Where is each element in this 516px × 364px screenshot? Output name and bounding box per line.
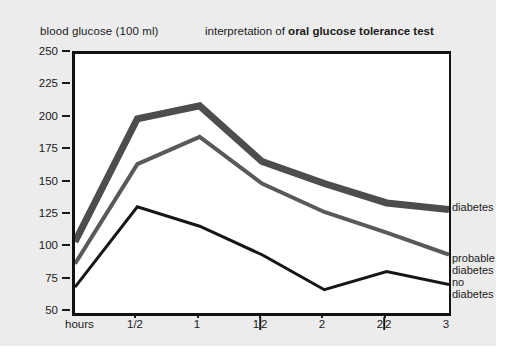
chart-title-emphasis: oral glucose tolerance test — [288, 25, 434, 37]
x-axis-title: hours — [65, 318, 94, 330]
y-tick-mark — [62, 147, 70, 149]
chart-lines — [75, 54, 449, 313]
y-tick-mark — [62, 244, 70, 246]
y-tick-label: 200 — [24, 110, 58, 122]
y-tick-label: 175 — [24, 142, 58, 154]
x-tick-label: 1 2 — [240, 318, 280, 330]
series-label-diabetes: diabetes — [452, 201, 494, 214]
chart-title: interpretation of oral glucose tolerance… — [205, 25, 434, 37]
y-tick-label: 225 — [24, 77, 58, 89]
series-label-probable-diabetes-line2: diabetes — [452, 264, 494, 277]
y-tick-mark — [62, 180, 70, 182]
y-tick-label: 50 — [24, 304, 58, 316]
plot-area — [72, 51, 451, 316]
y-tick-mark — [62, 115, 70, 117]
y-tick-label: 75 — [24, 272, 58, 284]
y-tick-label: 150 — [24, 175, 58, 187]
y-tick-mark — [62, 212, 70, 214]
x-tick-label: 1 — [177, 318, 217, 330]
chart-title-prefix: interpretation of — [205, 25, 288, 37]
y-tick-mark — [62, 82, 70, 84]
line-no-diabetes — [75, 207, 449, 290]
series-label-no-diabetes-line2: diabetes — [452, 288, 494, 301]
series-label-no-diabetes-line1: no — [452, 276, 464, 289]
series-label-probable-diabetes-line1: probable — [452, 252, 495, 265]
y-tick-mark — [62, 50, 70, 52]
y-tick-label: 125 — [24, 207, 58, 219]
x-tick-label: 3 — [426, 318, 466, 330]
y-tick-mark — [62, 277, 70, 279]
x-tick-label: 2 — [302, 318, 342, 330]
y-tick-label: 250 — [24, 45, 58, 57]
y-tick-label: 100 — [24, 239, 58, 251]
y-tick-mark — [62, 309, 70, 311]
x-tick-label: 1/2 — [115, 318, 155, 330]
y-axis-title: blood glucose (100 ml) — [40, 25, 159, 37]
x-tick-label: 2 2 — [364, 318, 404, 330]
